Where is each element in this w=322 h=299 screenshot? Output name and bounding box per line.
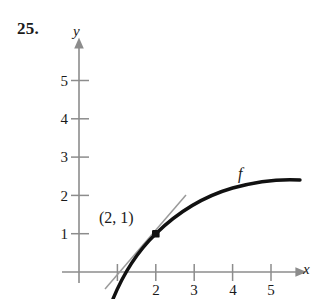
y-tick-label-3: 3: [52, 149, 68, 166]
x-tick-label-2: 2: [148, 282, 164, 299]
x-tick-label-3: 3: [186, 282, 202, 299]
x-axis-label: x: [303, 262, 310, 277]
y-tick-label-5: 5: [52, 73, 68, 90]
graph-canvas: [0, 0, 322, 299]
point-marker: [152, 230, 160, 238]
point-label: (2, 1): [99, 210, 134, 226]
x-tick-label-4: 4: [225, 282, 241, 299]
y-axis-label: y: [73, 24, 80, 39]
figure-container: 25. y x 5 4 3 2 1 2 3 4 5 f (2, 1): [0, 0, 322, 299]
y-tick-label-1: 1: [52, 226, 68, 243]
curve-label-f: f: [238, 166, 242, 182]
y-tick-label-2: 2: [52, 188, 68, 205]
y-tick-label-4: 4: [52, 111, 68, 128]
problem-number: 25.: [17, 20, 39, 37]
x-tick-label-5: 5: [263, 282, 279, 299]
y-axis-ticks: [71, 81, 89, 234]
